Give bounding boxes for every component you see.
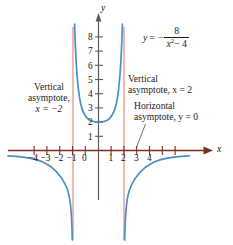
curve-right-branch	[125, 156, 189, 240]
x-tick-label-3: 3	[134, 153, 139, 163]
horizontal-asymptote-leader-line	[136, 124, 146, 149]
graph-canvas	[0, 0, 233, 245]
equation-equals: =	[149, 32, 155, 43]
vertical-asymptote-left-annotation: Vertical asymptote, x = −2	[21, 81, 77, 115]
y-tick-label-7: 7	[88, 46, 93, 56]
y-tick-label-8: 8	[88, 32, 93, 42]
vertical-asymptote-left-line2: asymptote,	[21, 92, 77, 103]
equation-numerator: 8	[171, 26, 182, 36]
x-tick-label--3: −3	[41, 153, 51, 163]
x-axis-label: x	[217, 144, 221, 154]
vertical-asymptote-left-line1: Vertical	[21, 81, 77, 92]
equation-fraction: 8 x2− 4	[164, 26, 189, 49]
equation-lhs: y	[143, 32, 147, 43]
vertical-asymptote-right-line1: Vertical	[128, 73, 192, 84]
x-tick-label--1: −1	[67, 153, 77, 163]
equation-annotation: y = − 8 x2− 4	[143, 26, 189, 49]
x-tick-label-0: 0	[82, 153, 87, 163]
y-tick-label-6: 6	[88, 61, 93, 71]
y-tick-label-5: 5	[88, 75, 93, 85]
y-axis-arrowhead	[96, 13, 102, 22]
equation-denominator: x2− 4	[164, 39, 189, 49]
rational-function-graph-figure: y x −4 −3 −2 −1 0 1 2 3 4 1 2 3 4 5 6 7 …	[0, 0, 233, 245]
y-tick-label-3: 3	[88, 103, 93, 113]
x-tick-label-1: 1	[109, 153, 114, 163]
x-tick-label--4: −4	[28, 153, 38, 163]
vertical-asymptote-left-line3: x = −2	[21, 103, 77, 114]
horizontal-asymptote-line1: Horizontal	[134, 100, 198, 111]
x-axis-arrowhead	[204, 147, 214, 155]
y-axis-label: y	[101, 3, 105, 13]
equation-minus-sign: −	[158, 32, 164, 43]
vertical-asymptote-right-annotation: Vertical asymptote, x = 2	[128, 73, 192, 95]
vertical-asymptote-right-line2: asymptote, x = 2	[128, 84, 192, 95]
y-tick-label-2: 2	[88, 117, 93, 127]
horizontal-asymptote-annotation: Horizontal asymptote, y = 0	[134, 100, 198, 122]
y-tick-label-4: 4	[88, 89, 93, 99]
x-tick-label--2: −2	[54, 153, 64, 163]
curve-left-branch	[8, 156, 72, 240]
x-tick-label-2: 2	[121, 153, 126, 163]
x-tick-label-4: 4	[147, 153, 152, 163]
equation-denominator-rest: − 4	[174, 38, 187, 49]
horizontal-asymptote-line2: asymptote, y = 0	[134, 111, 198, 122]
y-tick-label-1: 1	[88, 132, 93, 142]
